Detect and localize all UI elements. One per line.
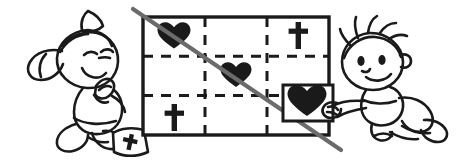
clipart-scene: Children playing tic-tac-toe with hearts… — [0, 0, 464, 164]
boy-eye-right — [378, 55, 385, 65]
boy-eye-left — [357, 56, 364, 66]
girl-eye-lash — [99, 57, 110, 58]
tic-tac-toe-board[interactable] — [133, 9, 341, 150]
illustration-canvas — [0, 0, 464, 164]
